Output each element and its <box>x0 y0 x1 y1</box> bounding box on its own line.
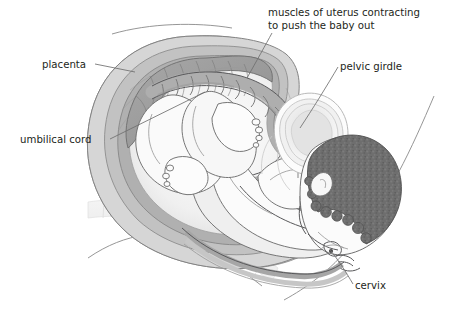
label-muscles-of-uterus-line1: muscles of uterus contracting <box>268 7 420 18</box>
label-muscles-of-uterus-line2: to push the baby out <box>268 20 374 31</box>
label-placenta: placenta <box>42 59 86 70</box>
label-umbilical-cord: umbilical cord <box>20 134 92 145</box>
diagram-canvas: muscles of uterus contracting to push th… <box>0 0 450 326</box>
label-pelvic-girdle: pelvic girdle <box>340 61 402 72</box>
label-cervix: cervix <box>355 280 386 291</box>
childbirth-diagram: muscles of uterus contracting to push th… <box>0 0 450 326</box>
